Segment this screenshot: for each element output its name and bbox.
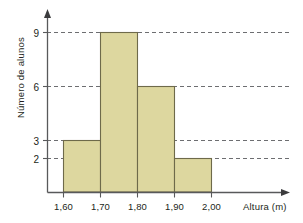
y-tick-label-9: 9 — [33, 28, 39, 39]
y-axis-title: Número de alunos — [15, 37, 26, 118]
x-tick-label-2-00: 2,00 — [202, 201, 221, 212]
y-tick-label-3: 3 — [33, 136, 39, 147]
x-tick-labels: 1,60 1,70 1,80 1,90 2,00 — [54, 201, 221, 212]
x-tick-label-1-90: 1,90 — [165, 201, 184, 212]
bar-series — [64, 33, 212, 193]
x-tick-label-1-60: 1,60 — [54, 201, 73, 212]
bar-1-60-1-70 — [64, 141, 101, 193]
y-tick-marks — [43, 33, 48, 159]
x-tick-label-1-70: 1,70 — [91, 201, 110, 212]
y-axis-arrow-icon — [44, 9, 51, 18]
y-tick-labels: 9 6 3 2 — [33, 28, 39, 165]
y-tick-label-2: 2 — [33, 154, 39, 165]
x-axis-title: Altura (m) — [243, 201, 287, 212]
bar-1-80-1-90 — [138, 87, 175, 193]
histogram-chart: 9 6 3 2 1,60 1,70 1,80 1,90 2,00 Altura … — [0, 0, 303, 223]
bar-1-70-1-80 — [101, 33, 138, 193]
chart-canvas: 9 6 3 2 1,60 1,70 1,80 1,90 2,00 Altura … — [0, 0, 303, 223]
x-axis-arrow-icon — [281, 189, 290, 196]
x-tick-marks — [64, 193, 212, 198]
x-tick-label-1-80: 1,80 — [128, 201, 147, 212]
bar-1-90-2-00 — [175, 159, 212, 193]
y-tick-label-6: 6 — [33, 82, 39, 93]
